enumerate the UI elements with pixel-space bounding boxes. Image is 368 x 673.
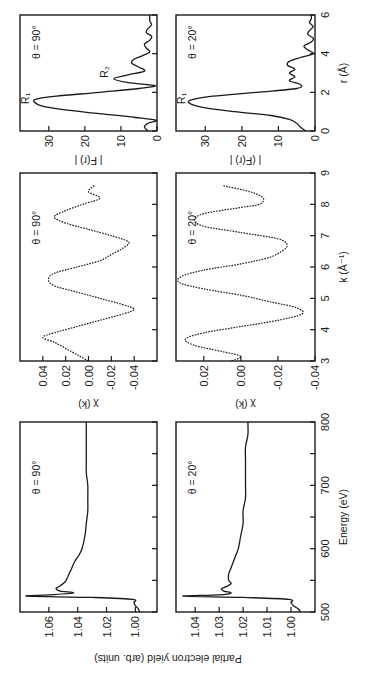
y-tick-label: 1.00 xyxy=(129,616,141,637)
y-tick-label: 0.00 xyxy=(83,365,95,386)
theta-annotation: θ = 90° xyxy=(30,25,42,59)
theta-annotation: θ = 20° xyxy=(186,25,198,59)
y-tick-label: 1.06 xyxy=(43,616,55,637)
y-tick-label: -0.04 xyxy=(128,365,140,390)
y-tick-label: 30 xyxy=(199,135,211,147)
y-tick-label: 0.02 xyxy=(60,365,72,386)
y-tick-label: 30 xyxy=(43,135,55,147)
y-tick-label: 1.04 xyxy=(72,616,84,637)
plot-frame xyxy=(20,422,157,612)
panel-fr_theta90: 0102030θ = 90°| F(r) |R₁R₂ xyxy=(19,15,163,167)
y-tick-label: 1.02 xyxy=(101,616,113,637)
peak-label-r1: R₁ xyxy=(175,92,187,104)
y-tick-label: 1.00 xyxy=(285,616,297,637)
x-tick-label: 2 xyxy=(319,89,331,95)
energy-x-axis-label: Energy (eV) xyxy=(337,489,349,545)
panel-energy_theta20: 1.001.011.021.031.04500600700800θ = 20° xyxy=(176,413,331,638)
y-tick-label: 1.04 xyxy=(189,616,201,637)
y-tick-label: 10 xyxy=(272,135,284,147)
data-curve xyxy=(188,15,313,131)
y-axis-label: | (F(r) | xyxy=(230,155,262,167)
peak-label-r1: R₁ xyxy=(19,92,31,104)
data-curve xyxy=(183,422,301,612)
theta-annotation: θ = 20° xyxy=(186,211,198,245)
x-tick-label: 4 xyxy=(319,51,331,57)
x-tick-label: 7 xyxy=(319,233,331,239)
y-tick-label: -0.02 xyxy=(105,365,117,390)
y-tick-label: 1.03 xyxy=(213,616,225,637)
x-tick-label: 0 xyxy=(319,128,331,134)
panel-chi_theta90: -0.04-0.020.000.020.04θ = 90°χ (k) xyxy=(20,173,157,411)
y-tick-label: 0.02 xyxy=(198,365,210,386)
y-tick-label: 20 xyxy=(236,135,248,147)
y-tick-label: 1.02 xyxy=(237,616,249,637)
y-tick-label: 0 xyxy=(151,135,163,141)
x-tick-label: 9 xyxy=(319,170,331,176)
plot-frame xyxy=(176,173,315,361)
panel-fr_theta20: 01020300246θ = 20°| (F(r) |R₁ xyxy=(175,12,331,167)
y-tick-label: 20 xyxy=(79,135,91,147)
data-curve xyxy=(43,186,134,362)
x-tick-label: 600 xyxy=(319,539,331,557)
x-tick-label: 3 xyxy=(319,358,331,364)
theta-annotation: θ = 90° xyxy=(30,461,42,495)
data-curve xyxy=(34,15,157,131)
x-tick-label: 4 xyxy=(319,327,331,333)
peak-label-r2: R₂ xyxy=(98,66,110,78)
panel-energy_theta90: 1.001.021.041.06θ = 90° xyxy=(20,422,157,637)
y-tick-label: 0.00 xyxy=(235,365,247,386)
panel-chi_theta20: -0.04-0.020.000.023456789θ = 20°χ (k) xyxy=(176,170,331,411)
theta-annotation: θ = 90° xyxy=(30,211,42,245)
x-tick-label: 5 xyxy=(319,295,331,301)
y-tick-label: 0 xyxy=(309,135,321,141)
y-axis-label: | F(r) | xyxy=(74,155,102,167)
x-tick-label: 8 xyxy=(319,201,331,207)
x-tick-label: 6 xyxy=(319,12,331,18)
r-x-axis-label: r (Å) xyxy=(337,63,349,83)
y-axis-label: χ (k) xyxy=(78,399,99,411)
x-tick-label: 500 xyxy=(319,603,331,621)
x-tick-label: 6 xyxy=(319,264,331,270)
energy-y-axis-label: Partial electron yield (arb. units) xyxy=(94,653,242,665)
x-tick-label: 800 xyxy=(319,413,331,431)
y-axis-label: χ (k) xyxy=(235,399,256,411)
y-tick-label: 1.01 xyxy=(261,616,273,637)
theta-annotation: θ = 20° xyxy=(186,461,198,495)
y-tick-label: -0.04 xyxy=(309,365,321,390)
exafs-figure: 1.001.021.041.06θ = 90°1.001.011.021.031… xyxy=(0,0,368,673)
plot-frame xyxy=(20,173,157,361)
data-curve xyxy=(26,422,140,612)
y-tick-label: 0.04 xyxy=(37,365,49,386)
y-tick-label: -0.02 xyxy=(272,365,284,390)
figure-stage: 1.001.021.041.06θ = 90°1.001.011.021.031… xyxy=(0,0,368,673)
y-tick-label: 10 xyxy=(115,135,127,147)
x-tick-label: 700 xyxy=(319,476,331,494)
k-x-axis-label: k (Å⁻¹) xyxy=(337,251,349,283)
